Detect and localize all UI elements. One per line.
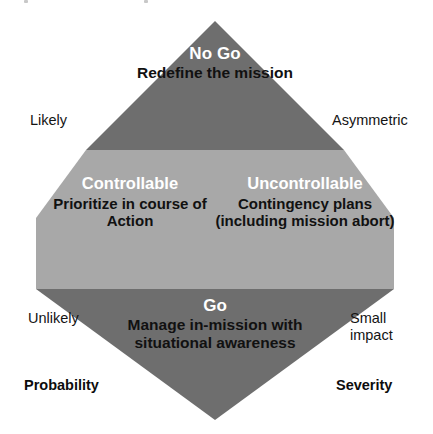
axis-title-probability: Probability bbox=[24, 377, 99, 393]
segment-no-go-shape bbox=[86, 21, 344, 150]
segment-controllable-heading: Controllable bbox=[44, 174, 216, 193]
segment-go-body: Manage in-mission with situational aware… bbox=[105, 316, 325, 351]
segment-go-heading: Go bbox=[105, 296, 325, 315]
segment-uncontrollable-body: Contingency plans (including mission abo… bbox=[214, 195, 396, 229]
axis-title-severity: Severity bbox=[336, 377, 392, 393]
segment-no-go-body: Redefine the mission bbox=[115, 64, 315, 82]
segment-controllable-body: Prioritize in course of Action bbox=[44, 195, 216, 229]
segment-uncontrollable-heading: Uncontrollable bbox=[214, 174, 396, 193]
segment-no-go: No Go Redefine the mission bbox=[115, 44, 315, 82]
axis-label-severity-high: Asymmetric bbox=[332, 112, 408, 129]
diagram-canvas: No Go Redefine the mission Controllable … bbox=[0, 0, 433, 434]
axis-label-severity-low: Small impact bbox=[350, 310, 393, 345]
segment-uncontrollable: Uncontrollable Contingency plans (includ… bbox=[214, 174, 396, 229]
axis-label-probability-low: Unlikely bbox=[28, 310, 79, 327]
segment-go: Go Manage in-mission with situational aw… bbox=[105, 296, 325, 352]
segment-no-go-heading: No Go bbox=[115, 44, 315, 63]
axis-label-probability-high: Likely bbox=[30, 112, 67, 129]
segment-controllable: Controllable Prioritize in course of Act… bbox=[44, 174, 216, 229]
